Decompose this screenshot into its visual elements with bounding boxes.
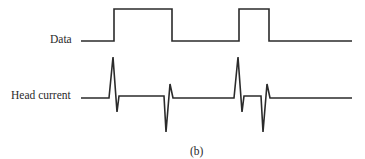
head-current-waveform xyxy=(81,57,352,132)
figure-caption: (b) xyxy=(190,146,203,158)
data-signal-label: Data xyxy=(50,34,72,46)
waveform-diagram: Data Head current (b) xyxy=(0,0,365,159)
data-waveform xyxy=(81,9,352,41)
waveform-canvas xyxy=(0,0,365,159)
head-current-signal-label: Head current xyxy=(11,90,71,102)
